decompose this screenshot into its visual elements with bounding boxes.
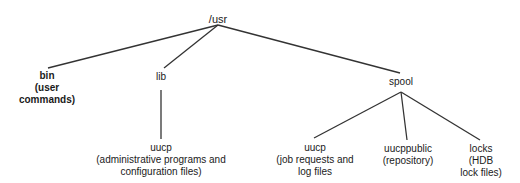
node-spool-label: spool — [389, 76, 413, 88]
node-lib-uucp: uucp (administrative programs and config… — [96, 142, 226, 178]
node-uucppublic-label: uucppublic — [383, 143, 434, 155]
node-locks-label: locks — [460, 143, 502, 155]
edge-usr-spool — [218, 25, 400, 73]
tree-edges — [0, 0, 520, 183]
node-lib-uucp-desc-1: (administrative programs and — [96, 154, 226, 166]
edge-spool-locks — [401, 92, 480, 140]
node-usr-label: /usr — [209, 13, 227, 25]
node-bin: bin (user commands) — [19, 70, 75, 106]
node-lib-uucp-desc-2: configuration files) — [96, 166, 226, 178]
node-spool-uucp-label: uucp — [276, 142, 353, 154]
node-lib: lib — [156, 71, 166, 83]
node-spool-uucp-desc-1: (job requests and — [276, 154, 353, 166]
node-uucppublic-desc-1: (repository) — [383, 155, 434, 167]
node-bin-label: bin — [19, 70, 75, 82]
edge-spool-uucppublic — [401, 92, 407, 140]
node-locks-desc-2: lock files) — [460, 167, 502, 179]
edge-spool-spool-uucp — [314, 92, 401, 138]
node-uucppublic: uucppublic (repository) — [383, 143, 434, 167]
directory-tree-diagram: /usr bin (user commands) lib spool uucp … — [0, 0, 520, 183]
node-spool-uucp-desc-2: log files — [276, 166, 353, 178]
node-locks-desc-1: (HDB — [460, 155, 502, 167]
edge-usr-bin — [48, 25, 218, 68]
node-lib-label: lib — [156, 71, 166, 83]
node-locks: locks (HDB lock files) — [460, 143, 502, 179]
node-bin-desc-1: (user — [19, 82, 75, 94]
node-spool-uucp: uucp (job requests and log files — [276, 142, 353, 178]
node-usr: /usr — [209, 13, 227, 25]
node-lib-uucp-label: uucp — [96, 142, 226, 154]
node-bin-desc-2: commands) — [19, 94, 75, 106]
node-spool: spool — [389, 76, 413, 88]
